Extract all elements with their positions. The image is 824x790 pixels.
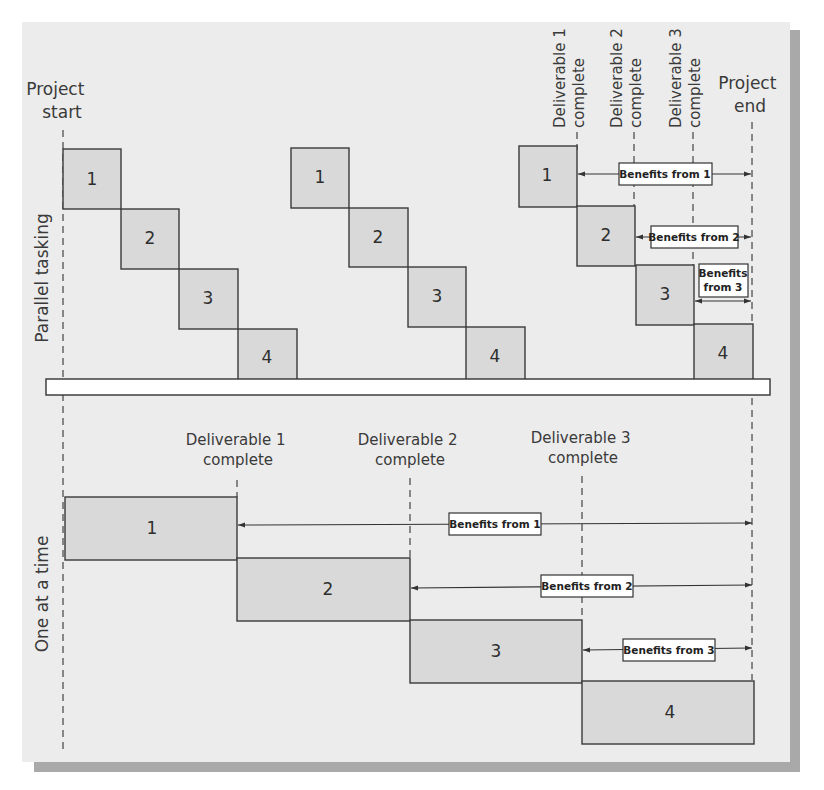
svg-text:1: 1 <box>147 518 158 538</box>
svg-text:Benefits: Benefits <box>699 267 748 279</box>
svg-text:Deliverable 3complete: Deliverable 3complete <box>667 28 704 128</box>
project-end-label: Project end <box>718 73 782 116</box>
svg-text:4: 4 <box>718 343 729 363</box>
svg-text:Parallel tasking: Parallel tasking <box>32 213 52 342</box>
svg-text:2: 2 <box>601 225 612 245</box>
svg-text:Deliverable 1complete: Deliverable 1complete <box>551 28 588 128</box>
parallel-section-label: Parallel tasking <box>32 213 52 342</box>
svg-text:from 3: from 3 <box>704 281 743 293</box>
diagram-canvas: Project start Project end Deliverable 1c… <box>0 0 824 790</box>
parallel-deliverable-1-label: Deliverable 1complete <box>551 28 588 128</box>
svg-text:One at a time: One at a time <box>32 536 52 653</box>
parallel-group-2: 1 2 3 4 <box>291 148 525 387</box>
svg-text:4: 4 <box>262 347 273 367</box>
project-start-label: Project start <box>26 79 90 122</box>
parallel-benefits-3: Benefits from 3 <box>695 264 751 301</box>
parallel-group-1: 1 2 3 4 <box>63 149 297 388</box>
svg-text:Benefits from 1: Benefits from 1 <box>619 168 710 180</box>
svg-text:Benefits from 1: Benefits from 1 <box>449 518 540 530</box>
svg-text:4: 4 <box>665 702 676 722</box>
sequential-section-label: One at a time <box>32 536 52 653</box>
svg-text:Benefits from 2: Benefits from 2 <box>648 231 739 243</box>
svg-text:1: 1 <box>87 169 98 189</box>
section-divider <box>46 379 770 395</box>
sequential-deliverable-2-label: Deliverable 2 complete <box>358 431 463 469</box>
sequential-tasks: 1 2 3 4 <box>65 497 754 744</box>
svg-text:2: 2 <box>373 227 384 247</box>
svg-text:4: 4 <box>490 346 501 366</box>
svg-text:2: 2 <box>323 579 334 599</box>
sequential-benefits-1: Benefits from 1 <box>238 513 752 535</box>
sequential-deliverable-1-label: Deliverable 1 complete <box>186 431 291 469</box>
svg-text:Benefits from 3: Benefits from 3 <box>623 644 714 656</box>
svg-text:3: 3 <box>432 286 443 306</box>
parallel-deliverable-2-label: Deliverable 2complete <box>608 28 645 128</box>
svg-text:1: 1 <box>315 167 326 187</box>
parallel-benefits-2: Benefits from 2 <box>636 226 751 248</box>
parallel-deliverable-3-label: Deliverable 3complete <box>667 28 704 128</box>
svg-text:3: 3 <box>203 288 214 308</box>
svg-text:Deliverable 2complete: Deliverable 2complete <box>608 28 645 128</box>
svg-text:1: 1 <box>542 165 553 185</box>
sequential-deliverable-3-label: Deliverable 3 complete <box>531 429 636 467</box>
sequential-benefits-2: Benefits from 2 <box>411 575 752 597</box>
svg-text:3: 3 <box>660 284 671 304</box>
parallel-benefits-1: Benefits from 1 <box>578 163 751 185</box>
svg-text:Benefits from 2: Benefits from 2 <box>541 580 632 592</box>
sequential-benefits-3: Benefits from 3 <box>583 639 752 661</box>
svg-text:3: 3 <box>491 641 502 661</box>
svg-text:2: 2 <box>145 228 156 248</box>
